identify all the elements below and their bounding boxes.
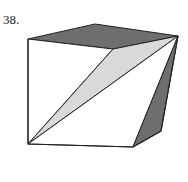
cube-diagram	[0, 0, 188, 182]
